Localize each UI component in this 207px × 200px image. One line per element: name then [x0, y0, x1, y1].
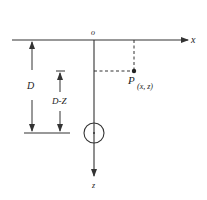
point-p-marker	[132, 69, 136, 73]
point-p-label: P	[127, 74, 135, 86]
depth-d-label: D	[26, 80, 35, 91]
z-axis-label: z	[91, 181, 96, 190]
gravity-point-source-diagram: x o z P (x, z) D D-Z	[0, 0, 207, 200]
x-axis-label: x	[190, 34, 196, 45]
point-p-coords-label: (x, z)	[137, 82, 153, 91]
origin-label: o	[91, 28, 95, 37]
depth-d-minus-z-label: D-Z	[51, 96, 67, 106]
